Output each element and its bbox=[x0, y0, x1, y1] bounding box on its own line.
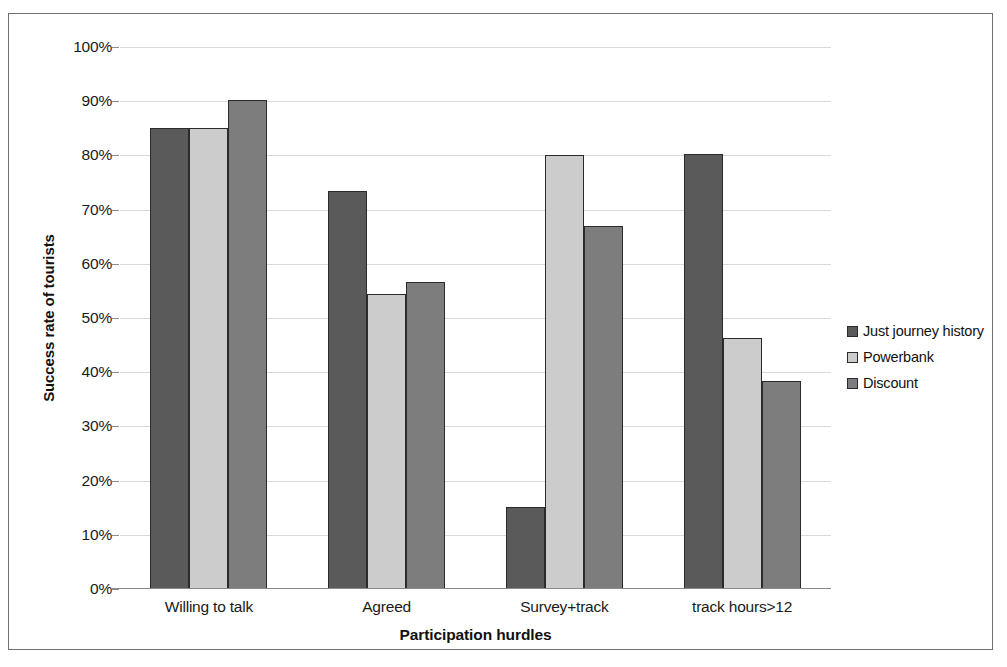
y-axis-tick-label: 100% bbox=[54, 38, 112, 56]
bar bbox=[584, 226, 623, 589]
bars-layer bbox=[120, 47, 831, 589]
x-axis-tick-label: Survey+track bbox=[520, 598, 608, 616]
bar bbox=[506, 507, 545, 589]
y-axis-tick bbox=[112, 372, 119, 373]
bar bbox=[545, 155, 584, 589]
bar bbox=[723, 338, 762, 589]
legend-swatch-icon bbox=[847, 326, 858, 337]
y-axis-tick bbox=[112, 47, 119, 48]
chart-frame: Success rate of tourists 0%10%20%30%40%5… bbox=[8, 13, 993, 650]
x-axis-tick-label: Willing to talk bbox=[165, 598, 253, 616]
bar bbox=[406, 282, 445, 589]
bar bbox=[189, 128, 228, 589]
bar bbox=[684, 154, 723, 589]
plot-area bbox=[120, 47, 831, 589]
bar bbox=[762, 381, 801, 589]
y-axis-tick-label: 60% bbox=[54, 255, 112, 273]
bar bbox=[150, 128, 189, 589]
y-axis-tick bbox=[112, 589, 119, 590]
y-axis-tick bbox=[112, 210, 119, 211]
y-axis-tick-label: 10% bbox=[54, 526, 112, 544]
legend-item-label: Just journey history bbox=[863, 323, 984, 339]
y-axis-tick bbox=[112, 481, 119, 482]
y-axis-tick-label: 90% bbox=[54, 92, 112, 110]
x-axis-tick-label: Agreed bbox=[362, 598, 411, 616]
legend-item-label: Powerbank bbox=[863, 349, 934, 365]
legend-item[interactable]: Discount bbox=[847, 370, 997, 396]
x-axis-title: Participation hurdles bbox=[120, 626, 831, 644]
bar bbox=[367, 294, 406, 589]
y-axis-tick bbox=[112, 535, 119, 536]
x-axis-line bbox=[112, 588, 831, 589]
y-axis-tick bbox=[112, 426, 119, 427]
y-axis-tick bbox=[112, 101, 119, 102]
bar bbox=[228, 100, 267, 589]
y-axis-tick-label: 20% bbox=[54, 472, 112, 490]
legend-swatch-icon bbox=[847, 352, 858, 363]
y-axis-tick bbox=[112, 264, 119, 265]
y-axis-tick bbox=[112, 318, 119, 319]
legend-item-label: Discount bbox=[863, 375, 918, 391]
y-axis-tick-label: 50% bbox=[54, 309, 112, 327]
y-axis-tick-label: 0% bbox=[54, 580, 112, 598]
y-axis-tick-labels: 0%10%20%30%40%50%60%70%80%90%100% bbox=[42, 47, 112, 589]
legend-item[interactable]: Just journey history bbox=[847, 318, 997, 344]
legend-item[interactable]: Powerbank bbox=[847, 344, 997, 370]
legend: Just journey historyPowerbankDiscount bbox=[847, 318, 997, 396]
y-axis-tick-label: 30% bbox=[54, 417, 112, 435]
y-axis-tick-label: 70% bbox=[54, 201, 112, 219]
y-axis-tick bbox=[112, 155, 119, 156]
bar bbox=[328, 191, 367, 589]
y-axis-tick-label: 80% bbox=[54, 146, 112, 164]
x-axis-tick-labels: Willing to talkAgreedSurvey+tracktrack h… bbox=[120, 598, 831, 624]
legend-swatch-icon bbox=[847, 378, 858, 389]
y-axis-tick-label: 40% bbox=[54, 363, 112, 381]
x-axis-tick-label: track hours>12 bbox=[692, 598, 792, 616]
